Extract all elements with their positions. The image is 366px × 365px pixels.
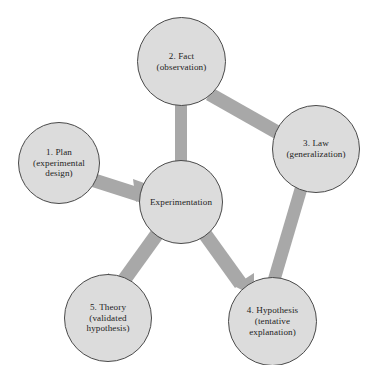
node-plan-label: 1. Plan (experimental design) bbox=[29, 147, 89, 179]
node-plan[interactable]: 1. Plan (experimental design) bbox=[18, 122, 100, 204]
node-experimentation[interactable]: Experimentation bbox=[139, 160, 223, 244]
node-law-label: 3. Law (generalization) bbox=[282, 138, 349, 159]
node-law[interactable]: 3. Law (generalization) bbox=[272, 105, 360, 193]
node-fact[interactable]: 2. Fact (observation) bbox=[137, 17, 226, 106]
node-fact-label: 2. Fact (observation) bbox=[153, 51, 211, 72]
node-experimentation-label: Experimentation bbox=[146, 197, 216, 208]
node-hypothesis[interactable]: 4. Hypothesis (tentative explanation) bbox=[228, 277, 317, 365]
node-theory-label: 5. Theory (validated hypothesis) bbox=[82, 302, 133, 334]
node-hypothesis-label: 4. Hypothesis (tentative explanation) bbox=[243, 305, 302, 337]
scientific-method-diagram: 1. Plan (experimental design) 2. Fact (o… bbox=[0, 0, 366, 365]
node-theory[interactable]: 5. Theory (validated hypothesis) bbox=[64, 274, 152, 362]
